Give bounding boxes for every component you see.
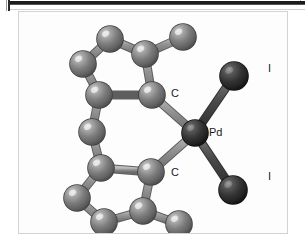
atom-sphere xyxy=(97,26,123,52)
atom-sphere xyxy=(88,155,114,181)
atom-c6 xyxy=(85,81,113,109)
atom-sphere xyxy=(132,41,158,67)
molecule-figure-frame: CCPdII xyxy=(18,11,288,234)
atom-c4 xyxy=(96,25,124,53)
atom-c1 xyxy=(138,81,166,109)
atom-sphere xyxy=(139,82,165,108)
atom-c9 xyxy=(87,154,115,182)
upper-panel-baseline xyxy=(10,9,305,10)
atom-c12 xyxy=(129,197,157,225)
atom-i1 xyxy=(219,61,249,91)
upper-panel-left-edge-soft xyxy=(6,0,7,11)
atom-sphere xyxy=(86,82,112,108)
upper-panel-border xyxy=(0,0,305,11)
atom-c2 xyxy=(137,158,165,186)
atom-label-c2: C xyxy=(171,167,179,178)
atom-i2 xyxy=(218,175,248,205)
atom-sphere xyxy=(130,198,156,224)
atom-c3 xyxy=(131,40,159,68)
atom-pd xyxy=(181,119,209,147)
atom-sphere xyxy=(220,62,248,90)
atom-c8 xyxy=(78,118,106,146)
atom-sphere xyxy=(170,24,196,50)
atom-c13 xyxy=(165,210,193,233)
atom-label-c1: C xyxy=(171,88,179,99)
atom-sphere xyxy=(219,176,247,204)
atom-label-i2: I xyxy=(268,171,271,182)
atom-sphere xyxy=(79,119,105,145)
molecular-structure-diagram xyxy=(19,12,287,233)
atom-sphere xyxy=(138,159,164,185)
atom-c5 xyxy=(69,50,97,78)
atom-sphere xyxy=(182,120,208,146)
atom-sphere xyxy=(64,185,90,211)
atom-c10 xyxy=(63,184,91,212)
atom-label-i1: I xyxy=(268,63,271,74)
atom-c7 xyxy=(169,23,197,51)
atom-sphere xyxy=(70,51,96,77)
atom-label-pd: Pd xyxy=(209,127,222,138)
